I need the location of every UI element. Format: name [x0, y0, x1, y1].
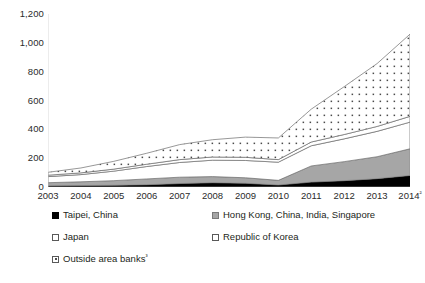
legend-item-label: Hong Kong, China, India, Singapore [223, 209, 375, 221]
legend-item-label: Republic of Korea [223, 231, 299, 243]
y-axis-tick-label: 400 [0, 124, 44, 134]
x-axis-tick-label: 2010 [268, 190, 289, 202]
legend-row: Outside area banks³ [52, 253, 412, 269]
x-axis-tick-label: 2005 [103, 190, 124, 202]
legend-swatch-icon [212, 234, 219, 241]
y-axis: 02004006008001,0001,200 [0, 0, 44, 283]
legend-item-label: Outside area banks³ [63, 253, 148, 265]
y-axis-tick-label: 800 [0, 67, 44, 77]
series-areas [48, 34, 410, 187]
chart-legend: Taipei, ChinaHong Kong, China, India, Si… [52, 209, 412, 279]
stacked-area-chart: 02004006008001,0001,200 2003200420052006… [0, 0, 425, 283]
x-axis: 2003200420052006200720082009201020112012… [48, 190, 410, 204]
x-axis-tick-label: 2014² [398, 190, 421, 202]
legend-row: JapanRepublic of Korea [52, 231, 412, 247]
x-axis-tick-label: 2004 [70, 190, 91, 202]
plot-area [48, 14, 410, 187]
legend-swatch-icon [52, 212, 59, 219]
legend-swatch-icon [212, 212, 219, 219]
x-axis-tick-label: 2003 [37, 190, 58, 202]
plot-svg [48, 14, 410, 187]
legend-item[interactable]: Outside area banks³ [52, 253, 212, 265]
x-axis-tick-label: 2006 [136, 190, 157, 202]
legend-item[interactable]: Japan [52, 231, 212, 243]
y-axis-tick-label: 1,200 [0, 9, 44, 19]
legend-swatch-icon [52, 234, 59, 241]
y-axis-tick-label: 200 [0, 153, 44, 163]
x-axis-tick-label: 2007 [169, 190, 190, 202]
legend-row: Taipei, ChinaHong Kong, China, India, Si… [52, 209, 412, 225]
legend-item[interactable]: Republic of Korea [212, 231, 412, 243]
x-axis-tick-label: 2008 [202, 190, 223, 202]
x-axis-tick-label: 2013 [367, 190, 388, 202]
legend-item-label: Taipei, China [63, 209, 118, 221]
y-axis-tick-label: 1,000 [0, 38, 44, 48]
x-axis-tick-label: 2011 [301, 190, 321, 202]
y-axis-tick-label: 600 [0, 96, 44, 106]
legend-item[interactable]: Taipei, China [52, 209, 212, 221]
legend-swatch-icon [52, 256, 59, 263]
x-axis-tick-label: 2012 [334, 190, 355, 202]
legend-item-label: Japan [63, 231, 89, 243]
legend-item[interactable]: Hong Kong, China, India, Singapore [212, 209, 412, 221]
x-axis-tick-label: 2009 [235, 190, 256, 202]
